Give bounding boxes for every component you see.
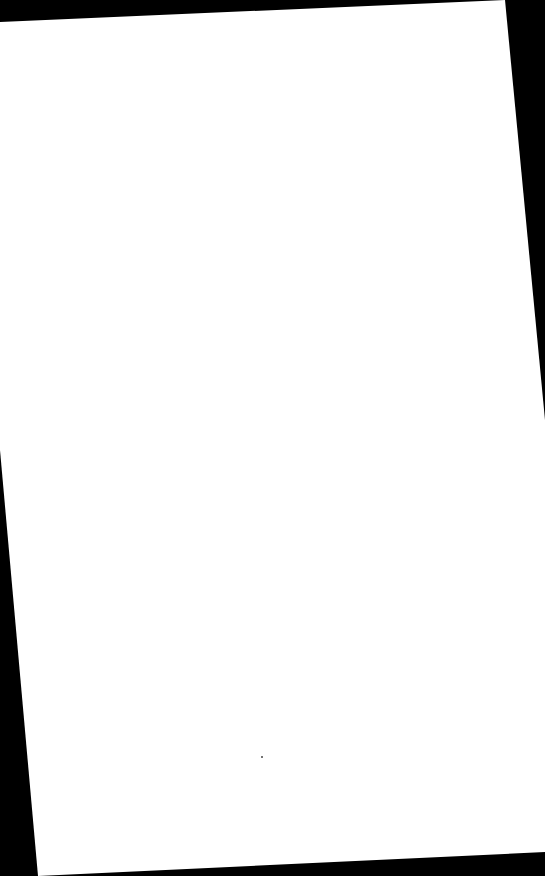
speck-mark [261, 756, 263, 758]
scan-background [0, 0, 545, 876]
scanned-page [0, 0, 545, 876]
page-sheet [0, 0, 545, 876]
